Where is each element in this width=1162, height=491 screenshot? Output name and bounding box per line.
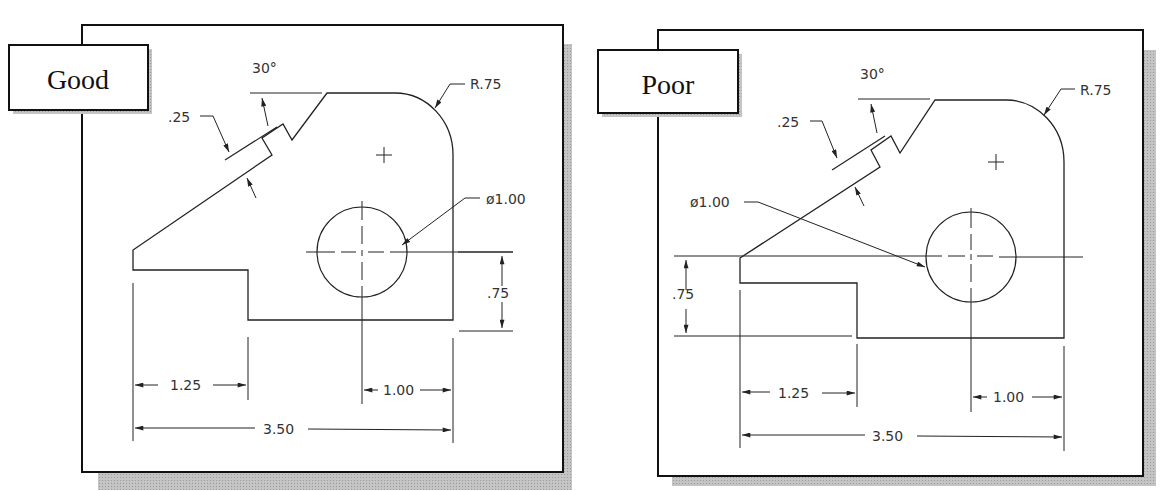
dim-hole-offset: 1.00 <box>993 389 1024 405</box>
dim-height: .75 <box>672 286 694 302</box>
panel-good: Good <box>0 0 581 491</box>
poor-drawing: Poor <box>580 0 1162 491</box>
dim-height: .75 <box>487 285 509 301</box>
dim-step-width: 1.25 <box>778 385 809 401</box>
dim-diameter: ø1.00 <box>690 194 730 210</box>
good-drawing: Good <box>0 0 581 491</box>
panel-label: Poor <box>642 69 696 100</box>
dim-radius: R.75 <box>1080 82 1112 98</box>
dim-angle: 30° <box>860 66 885 82</box>
dim-slot-width: .25 <box>168 109 190 125</box>
dim-hole-offset: 1.00 <box>383 382 414 398</box>
dim-overall-width: 3.50 <box>872 428 903 444</box>
dim-diameter: ø1.00 <box>486 191 526 207</box>
dim-step-width: 1.25 <box>170 377 201 393</box>
dim-slot-width: .25 <box>777 114 799 130</box>
panel-poor: Poor <box>580 0 1161 491</box>
drawing-frame <box>82 25 563 472</box>
dim-overall-width: 3.50 <box>263 421 294 437</box>
panel-label: Good <box>47 64 109 95</box>
dim-angle: 30° <box>252 60 277 76</box>
dim-radius: R.75 <box>470 76 502 92</box>
